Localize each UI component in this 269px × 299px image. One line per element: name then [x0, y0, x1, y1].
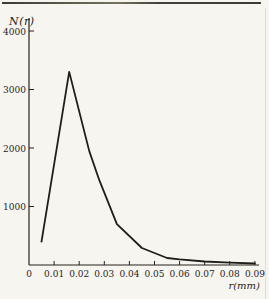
y-tick-label: 4000	[3, 27, 26, 37]
x-tick-label: 0.05	[144, 269, 164, 279]
x-tick-label: 0.07	[195, 269, 215, 279]
x-tick-label: 0.03	[94, 269, 114, 279]
chart-svg: 1000200030004000 00.010.020.030.040.050.…	[0, 0, 269, 299]
x-tick-label: 0.09	[245, 269, 265, 279]
scanned-figure-page: 1000200030004000 00.010.020.030.040.050.…	[0, 0, 269, 299]
y-axis-label: N(r)	[9, 15, 34, 28]
x-tick-label: 0.08	[220, 269, 240, 279]
y-tick-label: 2000	[3, 144, 26, 154]
x-tick-label: 0.06	[170, 269, 190, 279]
y-tick-label: 1000	[3, 202, 26, 212]
axes	[29, 18, 259, 265]
x-tick-label: 0.02	[69, 269, 89, 279]
x-tick-label: 0.04	[119, 269, 139, 279]
y-tick-label: 3000	[3, 85, 26, 95]
x-ticks: 00.010.020.030.040.050.060.070.080.09	[26, 261, 265, 279]
distribution-curve	[42, 72, 255, 264]
x-tick-label: 0	[26, 269, 32, 279]
x-axis-label: r(mm)	[228, 280, 260, 291]
x-tick-label: 0.01	[44, 269, 64, 279]
